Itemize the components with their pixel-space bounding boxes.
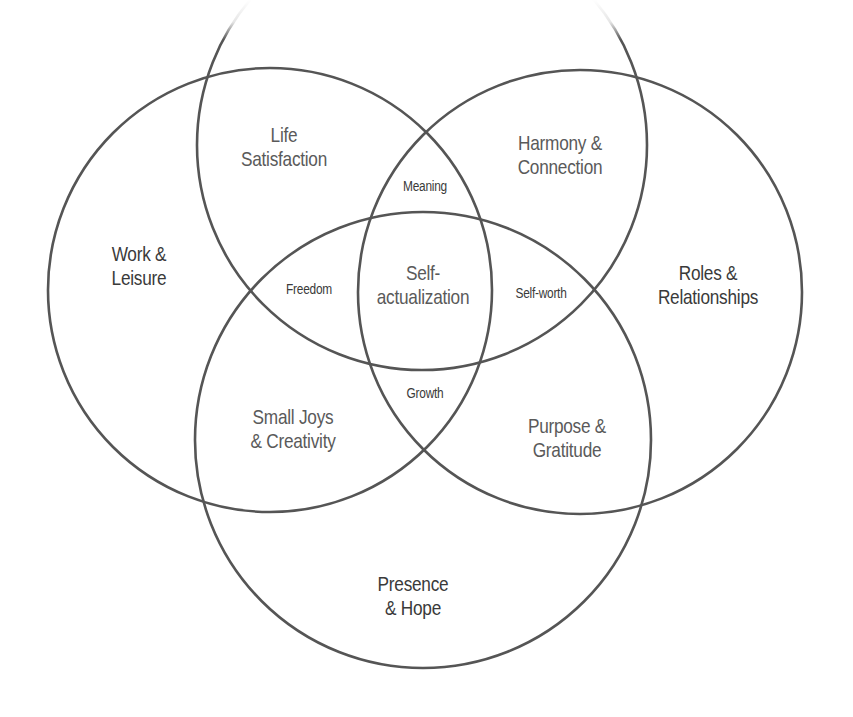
label-roles-relationships: Roles & Relationships	[658, 261, 758, 308]
label-presence-hope: Presence & Hope	[378, 572, 449, 619]
label-growth: Growth	[407, 386, 444, 402]
label-line: Harmony &	[518, 131, 603, 155]
label-life-satisfaction: Life Satisfaction	[241, 123, 327, 170]
label-line: Purpose &	[528, 414, 606, 438]
label-small-joys: Small Joys & Creativity	[250, 405, 335, 452]
label-meaning: Meaning	[403, 179, 447, 195]
label-line: Self-worth	[515, 286, 566, 302]
label-line: Gratitude	[528, 438, 606, 462]
label-line: Growth	[407, 386, 444, 402]
label-freedom: Freedom	[286, 282, 332, 298]
label-self-actualization: Self- actualization	[377, 261, 470, 308]
label-harmony-connection: Harmony & Connection	[518, 131, 603, 178]
label-line: Meaning	[403, 179, 447, 195]
label-line: Satisfaction	[241, 147, 327, 171]
label-work-leisure: Work & Leisure	[112, 242, 167, 289]
label-line: Life	[241, 123, 327, 147]
label-line: & Creativity	[250, 429, 335, 453]
label-line: Self-	[377, 261, 470, 285]
label-line: Leisure	[112, 266, 167, 290]
label-purpose-gratitude: Purpose & Gratitude	[528, 414, 606, 461]
label-line: Work &	[112, 242, 167, 266]
label-line: & Hope	[378, 596, 449, 620]
label-line: actualization	[377, 285, 470, 309]
label-line: Presence	[378, 572, 449, 596]
label-line: Connection	[518, 155, 603, 179]
label-self-worth: Self-worth	[515, 286, 566, 302]
label-line: Freedom	[286, 282, 332, 298]
label-line: Relationships	[658, 285, 758, 309]
label-line: Small Joys	[250, 405, 335, 429]
label-line: Roles &	[658, 261, 758, 285]
